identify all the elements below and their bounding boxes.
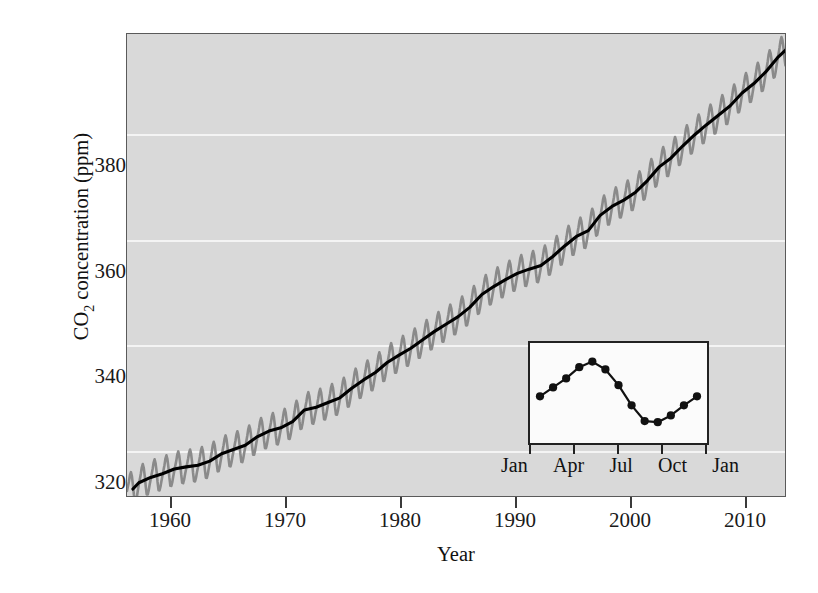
inset-tick-label-jan-end: Jan [712,455,739,475]
y-axis: 380 360 340 320 CO2 concentration (ppm) [52,33,126,497]
inset-tick-mark-jan-start [529,445,531,454]
inset-tick-mark-jan-end [705,445,707,454]
y-axis-title-prefix: CO [70,312,92,340]
x-tick-mark-1960 [170,497,172,508]
inset-tick-mark-apr [573,445,575,454]
inset-x-tick-labels: Jan Apr Jul Oct Jan [501,455,739,483]
x-tick-mark-1980 [400,497,402,508]
x-axis: 1960 1970 1980 1990 2000 2010 [126,497,786,543]
co2-keeling-curve-figure: 380 360 340 320 CO2 concentration (ppm) … [0,0,818,593]
inset-plot-area [528,341,709,445]
inset-tick-label-jul: Jul [609,455,632,475]
inset-seasonal-cycle-series [530,343,707,443]
x-tick-label-1980: 1980 [360,510,440,531]
x-tick-label-1990: 1990 [475,510,555,531]
inset-tick-label-apr: Apr [553,455,584,475]
inset-tick-mark-oct [661,445,663,454]
x-tick-mark-1970 [285,497,287,508]
x-tick-label-1960: 1960 [130,510,210,531]
x-tick-mark-1990 [515,497,517,508]
x-tick-label-2010: 2010 [705,510,785,531]
inset-tick-label-oct: Oct [658,455,687,475]
x-tick-label-1970: 1970 [245,510,325,531]
y-axis-title-suffix: concentration (ppm) [70,133,92,305]
y-axis-title-subscript: 2 [82,305,97,312]
x-axis-title: Year [126,543,786,566]
x-tick-mark-2000 [630,497,632,508]
inset-markers [536,358,701,427]
x-tick-label-2000: 2000 [590,510,670,531]
y-tick-label-320: 320 [72,472,126,493]
inset-tick-mark-jul [617,445,619,454]
x-tick-mark-2010 [745,497,747,508]
y-axis-title: CO2 concentration (ppm) [70,37,97,437]
inset-tick-label-jan-start: Jan [501,455,528,475]
